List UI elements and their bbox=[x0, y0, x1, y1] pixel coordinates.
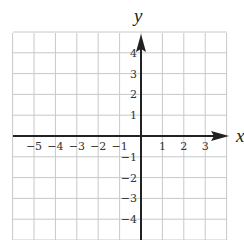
y-tick-label: −4 bbox=[121, 213, 137, 226]
y-axis-label: y bbox=[132, 5, 143, 26]
coordinate-grid: −5−4−3−2−1123 4321−1−2−3−4 x y bbox=[0, 0, 244, 240]
y-tick-label: 1 bbox=[130, 109, 137, 122]
y-tick-label: −2 bbox=[121, 172, 137, 185]
y-tick-label: −3 bbox=[121, 192, 137, 205]
axes bbox=[13, 34, 229, 240]
x-tick-labels: −5−4−3−2−1123 bbox=[26, 140, 209, 153]
x-tick-label: −4 bbox=[47, 140, 63, 153]
y-tick-label: −1 bbox=[121, 151, 137, 164]
y-tick-label: 4 bbox=[130, 47, 137, 60]
x-tick-label: −3 bbox=[69, 140, 85, 153]
coordinate-plane-figure: −5−4−3−2−1123 4321−1−2−3−4 x y bbox=[0, 0, 244, 240]
y-tick-label: 3 bbox=[130, 68, 137, 81]
x-tick-label: −5 bbox=[26, 140, 42, 153]
x-tick-label: −2 bbox=[90, 140, 106, 153]
x-tick-label: 3 bbox=[202, 140, 209, 153]
x-tick-label: 1 bbox=[159, 140, 166, 153]
x-tick-label: 2 bbox=[180, 140, 187, 153]
y-tick-label: 2 bbox=[130, 88, 137, 101]
x-axis-label: x bbox=[235, 125, 244, 146]
